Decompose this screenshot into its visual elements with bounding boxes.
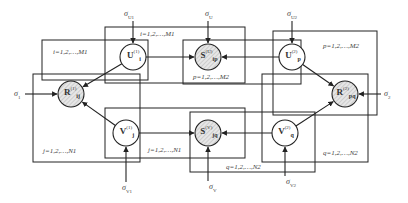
plate-label: i=1,2,…,M1: [53, 49, 87, 56]
sigma-V-label: σV: [209, 183, 217, 193]
node-label-u2: U(2)p: [285, 50, 301, 62]
sigma-V2-label: σV2: [286, 178, 296, 188]
sigma-V1-label: σV1: [122, 184, 132, 194]
graphical-model-diagram: [0, 0, 408, 203]
edge-arrow: [82, 102, 115, 125]
plate-label: q=1,2,…,N2: [323, 150, 358, 157]
sigma-2-label: σ2: [384, 90, 390, 100]
node-label-r1: R(1)ij: [64, 87, 80, 99]
sigma-U-label: σU: [205, 10, 213, 20]
node-label-su: S(U)ip: [201, 50, 218, 62]
node-label-v2: V(2)q: [278, 126, 294, 138]
plate-label: i=1,2,…,M1: [140, 31, 174, 38]
sigma-1-label: σ1: [14, 90, 20, 100]
sigma-U1-label: σU1: [124, 10, 134, 20]
plate-label: p=1,2,…,M2: [193, 74, 229, 81]
node-label-u1: U(1)i: [127, 50, 141, 62]
plate-label: j=1,2,…,N1: [43, 148, 76, 155]
plate-label: q=1,2,…,N2: [226, 164, 261, 171]
node-label-sv: S(V)jq: [200, 126, 217, 138]
sigma-U2-label: σU2: [287, 10, 297, 20]
node-label-v1: V(1)j: [120, 126, 134, 138]
plate-label: p=1,2,…,M2: [323, 43, 359, 50]
node-label-r2: R(2)pq: [336, 87, 355, 99]
edge-arrow: [303, 64, 334, 86]
plate-label: j=1,2,…,N1: [148, 147, 181, 154]
